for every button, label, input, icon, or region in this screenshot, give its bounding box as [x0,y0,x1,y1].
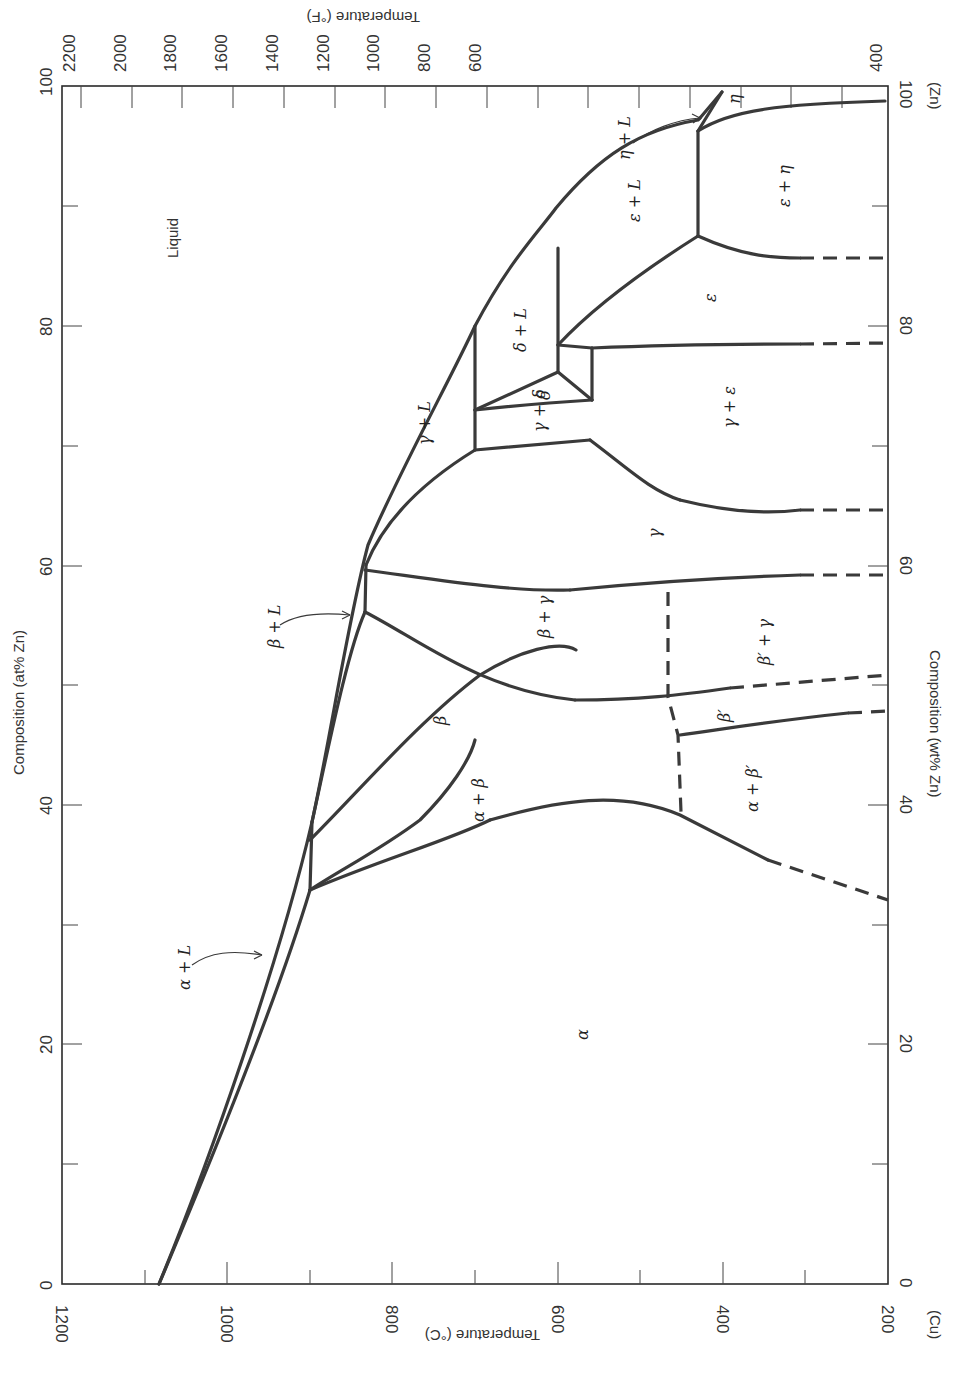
svg-text:200: 200 [878,1305,897,1333]
label-beta-prime: β′ [715,709,734,723]
svg-text:60: 60 [896,556,915,575]
svg-text:1000: 1000 [364,34,383,72]
label-beta: β [431,716,450,726]
label-gamma-eps: γ + ε [720,386,739,428]
svg-text:800: 800 [382,1305,401,1333]
svg-text:1400: 1400 [263,34,282,72]
wt-percent-ticks [868,206,888,1164]
label-alpha: α [573,1029,592,1040]
svg-text:600: 600 [548,1305,567,1333]
svg-text:100: 100 [896,80,915,108]
svg-text:40: 40 [896,795,915,814]
wt-percent-axis-label: Composition (wt% Zn) [927,650,944,798]
svg-text:1600: 1600 [212,34,231,72]
svg-text:1200: 1200 [52,1305,71,1343]
svg-text:60: 60 [37,557,56,576]
svg-text:0: 0 [37,1281,56,1290]
wt-percent-tick-labels: 0 20 40 60 80 100 [896,80,915,1287]
phase-boundaries [159,92,888,1284]
svg-text:40: 40 [37,796,56,815]
svg-text:1200: 1200 [314,34,333,72]
svg-text:2000: 2000 [111,34,130,72]
svg-text:80: 80 [37,317,56,336]
svg-text:20: 20 [896,1034,915,1053]
label-eta: η [725,94,744,104]
svg-text:1800: 1800 [161,34,180,72]
fahrenheit-axis-label: Temperature (°F) [306,9,420,26]
label-eps: ε [701,293,720,302]
label-delta-L: δ + L [511,308,530,352]
label-alpha-L: α + L [175,945,194,990]
label-beta-prime-gamma: β′ + γ [755,619,774,666]
zn-end-label: (Zn) [927,82,944,110]
svg-text:400: 400 [713,1305,732,1333]
at-percent-ticks [62,206,82,1164]
label-liquid: Liquid [164,218,181,258]
label-gamma: γ [645,528,664,538]
label-beta-L: β + L [265,605,284,649]
label-gamma-L: γ + L [415,401,434,445]
cu-end-label: (Cu) [927,1310,944,1339]
label-alpha-beta-prime: α + β′ [743,764,762,812]
label-eta-L: η + L [615,116,634,160]
fahrenheit-tick-labels: 2200 2000 1800 1600 1400 1200 1000 800 6… [60,34,886,72]
label-delta: δ [535,390,554,400]
svg-text:400: 400 [867,44,886,72]
label-eps-L: ε + L [625,179,644,222]
svg-text:1000: 1000 [217,1305,236,1343]
cu-zn-phase-diagram: 1200 1000 800 600 400 200 Temperature (°… [0,0,960,1375]
svg-text:80: 80 [896,316,915,335]
celsius-axis-label: Temperature (°C) [425,1327,540,1344]
label-alpha-beta: α + β [469,778,488,822]
label-beta-gamma: β + γ [535,595,554,639]
celsius-ticks [145,1262,805,1284]
svg-text:100: 100 [37,68,56,96]
svg-text:2200: 2200 [60,34,79,72]
beta-L-arrow [280,614,350,625]
at-percent-tick-labels: 0 20 40 60 80 100 [37,68,56,1290]
svg-text:20: 20 [37,1035,56,1054]
at-percent-axis-label: Composition (at% Zn) [10,630,27,775]
alpha-L-arrow [192,952,262,965]
label-eps-eta: ε + η [775,165,794,207]
svg-text:800: 800 [415,44,434,72]
svg-text:0: 0 [896,1278,915,1287]
svg-text:600: 600 [466,44,485,72]
beta-prime-transition [668,592,681,812]
